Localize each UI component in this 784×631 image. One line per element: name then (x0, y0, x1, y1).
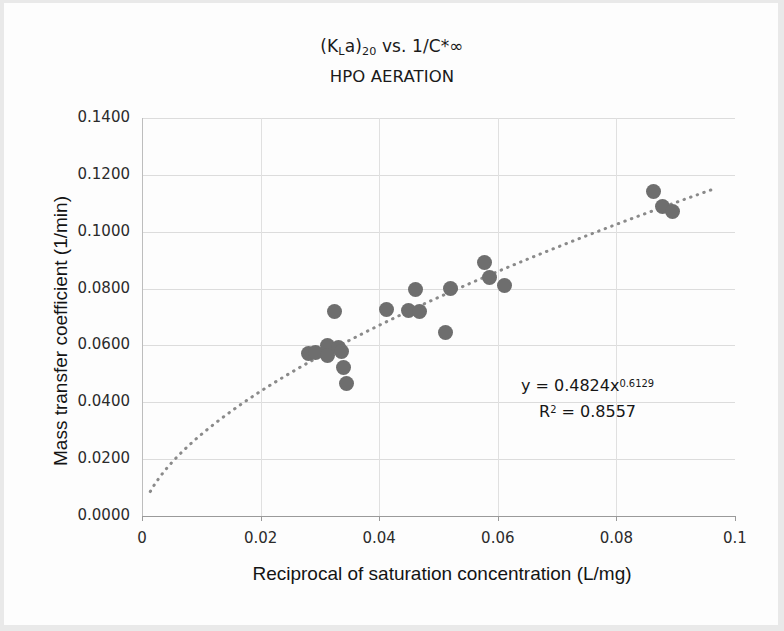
page-edge-right (778, 0, 784, 631)
x-tick-label: 0.08 (586, 529, 646, 547)
trendline-curve (142, 118, 735, 516)
r-symbol: R (539, 402, 550, 421)
y-tick-label: 0.0000 (64, 506, 130, 524)
chart-title-line-1: (KLa)20 vs. 1/C*∞ (0, 34, 784, 64)
data-point (477, 255, 492, 270)
chart-title: (KLa)20 vs. 1/C*∞ HPO AERATION (0, 34, 784, 89)
plot-area: y = 0.4824x0.6129 R2 = 0.8557 (142, 118, 735, 516)
x-tick-label: 0.02 (231, 529, 291, 547)
y-tick-label: 0.0200 (64, 449, 130, 467)
y-tick-label: 0.1000 (64, 222, 130, 240)
data-point (379, 302, 394, 317)
x-tick-mark (142, 516, 143, 521)
y-tick-label: 0.0400 (64, 392, 130, 410)
data-point (339, 376, 354, 391)
x-tick-label: 0 (112, 529, 172, 547)
title-pre: (K (320, 36, 338, 56)
x-tick-mark (261, 516, 262, 521)
title-post: vs. 1/C*∞ (376, 36, 463, 56)
data-point (412, 304, 427, 319)
x-tick-mark (498, 516, 499, 521)
equation-annotation: y = 0.4824x0.6129 R2 = 0.8557 (480, 372, 695, 424)
data-point (443, 281, 458, 296)
data-point (646, 184, 661, 199)
x-tick-label: 0.06 (468, 529, 528, 547)
r-squared-value: R2 = 0.8557 (480, 398, 695, 424)
page-edge-top (0, 0, 784, 3)
equation-text: y = 0.4824x (521, 376, 620, 395)
page-edge-left (0, 0, 4, 631)
y-tick-label: 0.1200 (64, 165, 130, 183)
chart-figure: (KLa)20 vs. 1/C*∞ HPO AERATION Reciproca… (0, 0, 784, 631)
x-tick-mark (616, 516, 617, 521)
data-point (334, 344, 349, 359)
chart-subtitle: HPO AERATION (0, 64, 784, 89)
equation-exponent: 0.6129 (619, 378, 654, 389)
y-tick-label: 0.1400 (64, 108, 130, 126)
x-tick-mark (379, 516, 380, 521)
x-axis-line (142, 516, 735, 517)
title-mid: a) (345, 36, 362, 56)
y-tick-label: 0.0600 (64, 335, 130, 353)
x-tick-mark (735, 516, 736, 521)
page-edge-bottom (0, 625, 784, 631)
x-axis-title: Reciprocal of saturation concentration (… (142, 563, 742, 585)
x-tick-label: 0.1 (705, 529, 765, 547)
y-tick-label: 0.0800 (64, 279, 130, 297)
title-sub-20: 20 (362, 45, 376, 58)
r-squared-number: = 0.8557 (556, 402, 636, 421)
x-tick-label: 0.04 (349, 529, 409, 547)
regression-equation: y = 0.4824x0.6129 (480, 372, 695, 398)
